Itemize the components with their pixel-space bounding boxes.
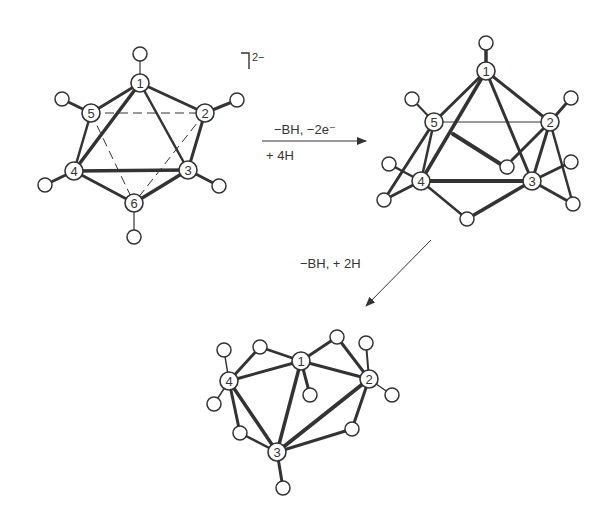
nido-b5h9-structure: 1 2 3 4 5 <box>377 36 580 226</box>
arachno-b4h10-structure: 1 2 3 4 <box>207 330 399 495</box>
atom-label: 4 <box>225 374 232 389</box>
atom-label: 6 <box>130 196 137 211</box>
hydrogen-atom <box>385 388 399 402</box>
hydrogen-atom <box>500 160 514 174</box>
atom-label: 1 <box>297 354 304 369</box>
atom-label: 2 <box>201 106 208 121</box>
atom-label: 4 <box>417 174 424 189</box>
hydrogen-atom <box>276 481 290 495</box>
atom-label: 4 <box>70 164 77 179</box>
charge-bracket <box>241 53 249 69</box>
hydrogen-atom <box>359 336 373 350</box>
hydrogen-atom <box>207 397 221 411</box>
hydrogen-atom <box>55 92 69 106</box>
hydrogen-atom <box>38 178 52 192</box>
reaction-1-below-label: + 4H <box>266 148 294 163</box>
atom-label: 3 <box>184 163 191 178</box>
bridging-hydrogen-atom <box>330 330 344 344</box>
hydrogen-atom <box>127 230 141 244</box>
hydrogen-atom <box>405 92 419 106</box>
bridging-hydrogen-atom <box>377 193 391 207</box>
bridging-hydrogen-atom <box>566 197 580 211</box>
hydrogen-atom <box>564 155 578 169</box>
hydrogen-atom <box>212 179 226 193</box>
atom-label: 3 <box>273 445 280 460</box>
closo-b6h6-structure: 1 2 3 4 5 6 2− <box>38 47 265 244</box>
bridging-hydrogen-atom <box>345 422 359 436</box>
atom-label: 5 <box>87 106 94 121</box>
reaction-arrow-2: −BH, + 2H <box>300 240 431 306</box>
bridging-hydrogen-atom <box>253 340 267 354</box>
reaction-arrow-1: −BH, −2e⁻ + 4H <box>262 122 366 163</box>
bridging-hydrogen-atom <box>233 426 247 440</box>
reaction-1-above-label: −BH, −2e⁻ <box>274 122 336 137</box>
hydrogen-atom <box>217 343 231 357</box>
reaction-2-label: −BH, + 2H <box>300 256 361 271</box>
hydrogen-atom <box>479 36 493 50</box>
atom-label: 2 <box>365 372 372 387</box>
hydrogen-atom <box>230 93 244 107</box>
hydrogen-atom <box>133 47 147 61</box>
hydrogen-atom <box>564 91 578 105</box>
atom-label: 5 <box>430 115 437 130</box>
bridging-hydrogen-atom <box>460 212 474 226</box>
atom-label: 1 <box>136 76 143 91</box>
atom-label: 2 <box>546 115 553 130</box>
charge-label: 2− <box>252 51 265 63</box>
atom-label: 1 <box>482 64 489 79</box>
atom-label: 3 <box>528 174 535 189</box>
hydrogen-atom <box>303 388 317 402</box>
reaction-diagram: 1 2 3 4 5 6 2− −BH, −2e⁻ + 4H <box>0 0 609 524</box>
hydrogen-atom <box>382 157 396 171</box>
